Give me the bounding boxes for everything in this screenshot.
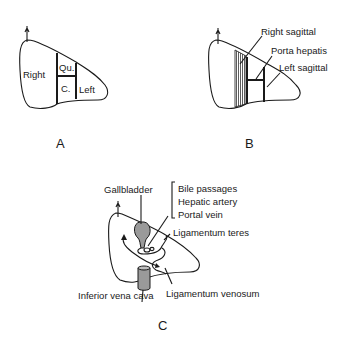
label-hepatic-artery: Hepatic artery — [178, 196, 237, 207]
caption-a: A — [56, 136, 65, 151]
panel-a: Right Qu. C. Left A — [20, 26, 108, 151]
caption-c: C — [158, 318, 167, 333]
panel-c: Gallbladder Bile passages Hepatic artery… — [78, 182, 260, 333]
gallbladder-shape — [134, 222, 150, 248]
label-inferior-vena-cava: Inferior vena cava — [78, 290, 154, 301]
label-ligamentum-teres: Ligamentum teres — [173, 227, 249, 238]
label-right-sagittal: Right sagittal — [261, 26, 316, 37]
label-left: Left — [79, 84, 95, 95]
inferior-vena-cava-shape — [138, 268, 150, 290]
liver-lobes-diagram: Right Qu. C. Left A Right sagittal Porta… — [0, 0, 349, 342]
label-left-sagittal: Left sagittal — [279, 62, 328, 73]
label-right: Right — [23, 69, 46, 80]
caption-b: B — [245, 136, 254, 151]
panel-b: Right sagittal Porta hepatis Left sagitt… — [209, 26, 328, 151]
label-caudate: C. — [61, 83, 71, 94]
label-ligamentum-venosum: Ligamentum venosum — [166, 288, 260, 299]
label-quadrate: Qu. — [59, 62, 74, 73]
label-bile-passages: Bile passages — [178, 183, 237, 194]
label-portal-vein: Portal vein — [178, 209, 223, 220]
label-gallbladder: Gallbladder — [104, 184, 153, 195]
label-porta-hepatis: Porta hepatis — [271, 45, 327, 56]
